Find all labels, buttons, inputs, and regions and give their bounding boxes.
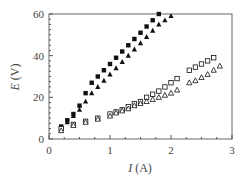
data-point [205, 72, 210, 77]
data-point [151, 18, 155, 22]
data-point [211, 67, 216, 72]
data-point [132, 37, 136, 41]
y-axis-ticks [49, 14, 53, 139]
data-point [175, 76, 179, 80]
data-point [169, 81, 173, 85]
y-axis-tick-labels: 0204060 [33, 8, 45, 145]
data-point [132, 47, 137, 52]
data-point [150, 28, 155, 33]
x-axis-tick-labels: 0123 [46, 144, 235, 156]
x-axis-label: I (A) [127, 161, 152, 175]
data-point [120, 59, 125, 64]
data-point [151, 92, 155, 96]
data-point [157, 89, 161, 93]
data-point [175, 87, 180, 92]
data-point [187, 80, 192, 85]
data-point [96, 74, 100, 78]
x-axis-ticks [49, 135, 232, 139]
data-point [144, 34, 149, 39]
scatter-chart: 0123 0204060 I (A) E (V) [0, 0, 245, 179]
data-point [89, 90, 94, 95]
y-axis-unit: (V) [8, 63, 22, 80]
data-point [126, 53, 131, 58]
data-point [114, 65, 119, 70]
data-point [95, 84, 100, 89]
x-tick-label: 1 [107, 144, 113, 156]
data-point [138, 40, 143, 45]
data-point [90, 81, 94, 85]
data-point [150, 97, 155, 102]
x-axis-unit: (A) [135, 161, 152, 175]
y-axis-variable: E [8, 83, 22, 92]
data-points [59, 12, 223, 133]
y-tick-label: 60 [33, 8, 45, 20]
data-point [83, 99, 88, 104]
data-point [107, 72, 112, 77]
x-tick-label: 0 [46, 144, 52, 156]
data-point [199, 62, 203, 66]
data-point [138, 31, 142, 35]
data-point [120, 49, 124, 53]
data-point [205, 59, 209, 63]
y-tick-label: 20 [33, 91, 45, 103]
y-tick-label: 40 [33, 50, 45, 62]
data-point [217, 63, 222, 68]
y-tick-label: 0 [39, 133, 45, 145]
data-point [157, 12, 161, 16]
data-point [162, 92, 167, 97]
data-point [163, 85, 167, 89]
data-point [168, 90, 173, 95]
data-point [83, 91, 87, 95]
x-tick-label: 2 [168, 144, 174, 156]
series-open-squares [59, 56, 216, 131]
data-point [193, 65, 197, 69]
data-point [162, 17, 167, 22]
data-point [156, 22, 161, 27]
x-axis-variable: I [127, 161, 133, 175]
data-point [108, 62, 112, 66]
data-point [212, 56, 216, 60]
data-point [187, 68, 191, 72]
data-point [193, 78, 198, 83]
data-point [144, 24, 148, 28]
data-point [126, 43, 130, 47]
x-tick-label: 3 [229, 144, 235, 156]
series-filled-squares [59, 12, 161, 129]
data-point [101, 78, 106, 83]
data-point [199, 75, 204, 80]
data-point [114, 56, 118, 60]
data-point [102, 68, 106, 72]
y-axis-label: E (V) [8, 63, 22, 91]
data-point [156, 95, 161, 100]
